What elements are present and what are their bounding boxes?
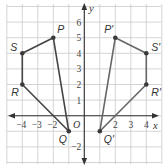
vertex-point [20,51,25,56]
x-tick-label: 4 [144,120,149,130]
vertex-label: R′ [151,86,162,98]
x-tick-label: −3 [32,120,42,130]
vertex-point [144,51,149,56]
vertex-label: P [57,23,64,35]
coordinate-plane: x y O −4−3−2234123456−2 PQRSP′Q′R′S′ [0,0,163,168]
vertex-point [98,129,103,134]
vertex-label: P′ [104,23,114,35]
vertex-point [113,35,118,40]
y-tick-label: 1 [77,96,82,106]
y-tick-label: 5 [77,33,82,43]
x-axis-left-arrow-icon [8,113,15,119]
x-axis-right-arrow-icon [152,113,159,119]
coordinate-plane-diagram: x y O −4−3−2234123456−2 PQRSP′Q′R′S′ [0,0,163,168]
x-tick-label: 2 [113,120,118,130]
vertex-label: R [11,86,19,98]
x-axis-label: x [152,120,158,131]
y-axis-label: y [88,3,94,14]
vertex-point [67,129,72,134]
y-tick-label: 3 [77,64,82,74]
x-tick-label: −2 [47,120,57,130]
y-tick-label: 4 [77,49,82,59]
y-tick-label: 2 [77,80,82,90]
vertex-point [20,82,25,87]
x-tick-label: −4 [16,120,26,130]
axes: x y O [8,3,159,165]
vertex-point [144,82,149,87]
origin-label: O [73,119,80,130]
vertex-label: S [10,41,17,53]
vertex-point [51,35,56,40]
vertex-label: Q [59,133,67,145]
vertex-label: Q′ [104,133,115,145]
vertex-label: S′ [151,41,161,53]
x-tick-label: 3 [128,120,133,130]
y-tick-label: −2 [71,142,81,152]
y-axis-down-arrow-icon [82,158,88,165]
y-tick-label: 6 [77,18,82,28]
